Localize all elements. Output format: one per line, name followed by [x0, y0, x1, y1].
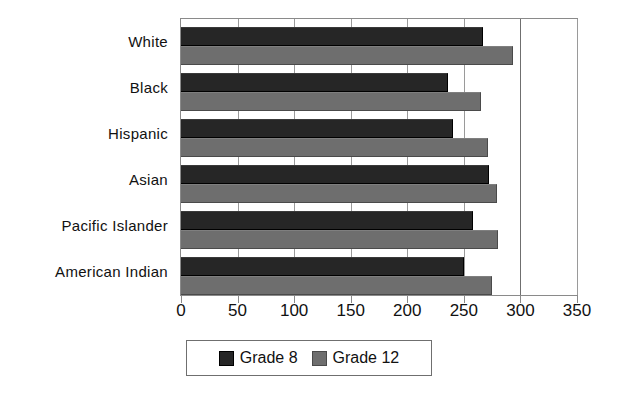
- bar-group: [181, 257, 577, 295]
- legend-swatch-icon: [219, 351, 234, 366]
- bars-layer: [181, 19, 577, 295]
- y-axis-tick-label: White: [128, 33, 168, 50]
- bar: [181, 211, 473, 230]
- x-axis-tick-label: 0: [176, 301, 185, 321]
- bar: [181, 276, 492, 295]
- bar: [181, 27, 483, 46]
- bar: [181, 119, 453, 138]
- x-axis-tick-label: 50: [228, 301, 247, 321]
- x-axis-labels: 050100150200250300350: [0, 301, 622, 325]
- bar-group: [181, 27, 577, 65]
- x-axis-tick-label: 300: [506, 301, 534, 321]
- x-axis-tick-label: 250: [450, 301, 478, 321]
- y-axis-tick-label: Asian: [129, 171, 168, 188]
- legend-label: Grade 8: [240, 349, 298, 367]
- x-axis-tick-label: 200: [393, 301, 421, 321]
- x-axis-tick-label: 100: [280, 301, 308, 321]
- bar: [181, 138, 488, 157]
- legend-entry-grade-12: Grade 12: [312, 349, 400, 367]
- chart-page: White Black Hispanic Asian Pacific Islan…: [0, 0, 622, 397]
- bar: [181, 46, 513, 65]
- chart-legend: Grade 8 Grade 12: [186, 340, 432, 376]
- bar: [181, 230, 498, 249]
- y-axis-tick-label: American Indian: [55, 263, 168, 280]
- bar: [181, 73, 448, 92]
- y-axis-tick-label: Hispanic: [108, 125, 168, 142]
- x-axis-tick-label: 150: [337, 301, 365, 321]
- bar-group: [181, 165, 577, 203]
- bar-group: [181, 119, 577, 157]
- y-axis-tick-label: Black: [130, 79, 168, 96]
- bar: [181, 92, 481, 111]
- bar: [181, 257, 464, 276]
- bar: [181, 165, 489, 184]
- legend-label: Grade 12: [333, 349, 400, 367]
- legend-swatch-icon: [312, 351, 327, 366]
- y-axis-labels: White Black Hispanic Asian Pacific Islan…: [0, 18, 174, 296]
- x-axis-tick-label: 350: [563, 301, 591, 321]
- legend-entry-grade-8: Grade 8: [219, 349, 298, 367]
- bar: [181, 184, 497, 203]
- plot-area: [180, 18, 578, 296]
- bar-group: [181, 73, 577, 111]
- gridline: [577, 19, 578, 295]
- bar-group: [181, 211, 577, 249]
- y-axis-tick-label: Pacific Islander: [61, 217, 168, 234]
